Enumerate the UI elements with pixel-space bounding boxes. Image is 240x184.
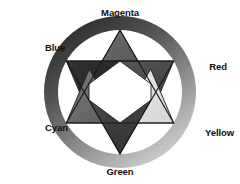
wheel-label-red: Red [209,62,227,72]
wheel-label-magenta: Magenta [0,8,240,18]
wheel-label-yellow: Yellow [205,128,234,138]
wheel-label-blue: Blue [45,43,65,53]
color-wheel-graphic [0,0,240,184]
color-wheel-diagram: Magenta Red Yellow Green Cyan Blue [0,0,240,184]
wheel-label-cyan: Cyan [45,123,68,133]
wheel-label-green: Green [0,167,240,177]
